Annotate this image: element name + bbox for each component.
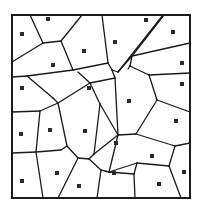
cell-edge bbox=[30, 15, 43, 43]
cell-edge bbox=[157, 100, 190, 112]
cell-edge bbox=[136, 100, 157, 134]
cell-edge bbox=[58, 103, 67, 146]
cell-edge bbox=[36, 152, 43, 198]
seed-point-icon bbox=[150, 154, 154, 158]
seed-point-icon bbox=[20, 179, 24, 183]
cell-edge bbox=[12, 43, 43, 62]
cell-edge bbox=[137, 163, 169, 166]
seed-point-icon bbox=[83, 129, 87, 133]
cell-edge bbox=[43, 41, 61, 43]
cell-edge bbox=[101, 170, 109, 172]
seed-point-icon bbox=[144, 18, 148, 22]
voronoi-diagram bbox=[0, 0, 204, 211]
cell-edge bbox=[78, 158, 89, 159]
cell-edge bbox=[61, 15, 82, 41]
cell-edges bbox=[12, 15, 190, 198]
cell-edge bbox=[118, 134, 136, 135]
seed-point-icon bbox=[19, 132, 23, 136]
cell-edge bbox=[90, 78, 115, 83]
seed-point-icon bbox=[48, 128, 52, 132]
cell-edge bbox=[89, 154, 94, 159]
cell-edge bbox=[169, 166, 181, 198]
cell-edge bbox=[90, 83, 100, 104]
cell-edge bbox=[97, 170, 101, 198]
seed-point-icon bbox=[157, 182, 161, 186]
cell-edge bbox=[89, 159, 101, 170]
cell-edge bbox=[149, 75, 157, 100]
cell-edge bbox=[40, 103, 58, 111]
cell-edge bbox=[134, 174, 135, 198]
cell-edge bbox=[61, 146, 67, 150]
seed-point-icon bbox=[182, 170, 186, 174]
cell-edge bbox=[109, 163, 137, 172]
seed-point-icon bbox=[51, 63, 55, 67]
seed-point-icon bbox=[113, 40, 117, 44]
cell-edge bbox=[67, 146, 78, 158]
cell-edge bbox=[58, 83, 90, 103]
cell-edge bbox=[169, 146, 175, 166]
cell-edge bbox=[53, 98, 58, 103]
cell-edge bbox=[149, 73, 190, 75]
seed-point-icon bbox=[180, 82, 184, 86]
cell-edge bbox=[36, 150, 61, 152]
cell-edge bbox=[102, 15, 108, 63]
cell-edge bbox=[136, 134, 175, 146]
cell-edge bbox=[36, 111, 40, 152]
seed-point-icon bbox=[180, 61, 184, 65]
cell-edge bbox=[78, 72, 90, 83]
cell-edge bbox=[108, 63, 112, 70]
seed-point-icon bbox=[87, 86, 91, 90]
cell-edge bbox=[27, 76, 53, 98]
cell-edge bbox=[100, 104, 118, 135]
cell-edge bbox=[130, 66, 149, 75]
cell-edge bbox=[12, 152, 36, 153]
cell-edge bbox=[73, 63, 108, 70]
seed-point-icon bbox=[20, 32, 24, 36]
seed-point-icon bbox=[114, 141, 118, 145]
cell-edge bbox=[94, 104, 100, 154]
voronoi-svg bbox=[0, 0, 204, 211]
cell-edge bbox=[12, 111, 40, 112]
seed-point-icon bbox=[112, 171, 116, 175]
cell-edge bbox=[58, 158, 78, 198]
seed-point-icon bbox=[82, 49, 86, 53]
seed-point-icon bbox=[127, 99, 131, 103]
seed-point-icon bbox=[171, 30, 175, 34]
cell-edge bbox=[134, 163, 137, 174]
cell-edge bbox=[175, 143, 190, 146]
cell-edge bbox=[115, 78, 118, 135]
cell-edge bbox=[61, 41, 73, 70]
seed-point-icon bbox=[174, 119, 178, 123]
seed-point-icon bbox=[20, 86, 24, 90]
seed-point-icon bbox=[46, 17, 50, 21]
cell-edge bbox=[12, 76, 27, 77]
seed-point-icon bbox=[55, 171, 59, 175]
seed-point-icon bbox=[77, 184, 81, 188]
cell-edge bbox=[27, 70, 73, 76]
